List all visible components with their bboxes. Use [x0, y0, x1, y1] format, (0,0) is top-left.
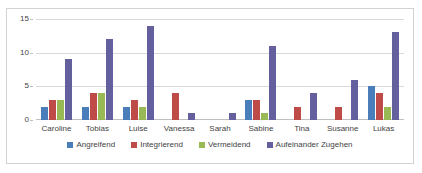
- bar: [368, 86, 375, 120]
- bar: [245, 100, 252, 120]
- bar: [376, 93, 383, 120]
- bar: [57, 100, 64, 120]
- bar: [41, 107, 48, 120]
- legend-item[interactable]: Aufeinander Zugehen: [267, 141, 353, 149]
- bar: [229, 113, 236, 120]
- bar-group: [322, 19, 363, 120]
- legend-swatch-icon: [67, 142, 73, 148]
- bar-group: [159, 19, 200, 120]
- x-tick-label: Luise: [118, 122, 159, 136]
- bar: [269, 46, 276, 120]
- legend-swatch-icon: [199, 142, 205, 148]
- legend-swatch-icon: [267, 142, 273, 148]
- bar-group: [118, 19, 159, 120]
- legend-label: Integrierend: [140, 141, 183, 149]
- x-tick-label: Caroline: [36, 122, 77, 136]
- x-tick-label: Sabine: [240, 122, 281, 136]
- legend-label: Angreifend: [76, 141, 115, 149]
- bar: [261, 113, 268, 120]
- bar: [384, 107, 391, 120]
- bar: [147, 26, 154, 120]
- y-tick-label: 5: [25, 82, 29, 90]
- legend-item[interactable]: Angreifend: [67, 141, 115, 149]
- legend-swatch-icon: [131, 142, 137, 148]
- y-axis: 051015: [7, 19, 33, 120]
- bar: [294, 107, 301, 120]
- bar-group: [200, 19, 241, 120]
- x-tick-label: Tobias: [77, 122, 118, 136]
- bar: [98, 93, 105, 120]
- bar: [310, 93, 317, 120]
- y-tick-mark: [30, 19, 33, 20]
- bar-group: [240, 19, 281, 120]
- bar: [351, 80, 358, 120]
- y-tick-mark: [30, 53, 33, 54]
- bar: [106, 39, 113, 120]
- x-axis: CarolineTobiasLuiseVanessaSarahSabineTin…: [36, 122, 404, 136]
- plot-area: [36, 19, 404, 120]
- x-tick-label: Lukas: [363, 122, 404, 136]
- bar: [253, 100, 260, 120]
- bar: [335, 107, 342, 120]
- legend-item[interactable]: Vermeidend: [199, 141, 251, 149]
- y-tick-mark: [30, 120, 33, 121]
- bar: [392, 32, 399, 120]
- bar-group: [36, 19, 77, 120]
- bar: [65, 59, 72, 120]
- chart-legend: AngreifendIntegrierendVermeidendAufeinan…: [7, 141, 413, 149]
- bars-layer: [36, 19, 404, 120]
- y-tick-mark: [30, 86, 33, 87]
- bar: [188, 113, 195, 120]
- x-tick-label: Susanne: [322, 122, 363, 136]
- bar-chart-figure: 051015 CarolineTobiasLuiseVanessaSarahSa…: [6, 8, 414, 164]
- y-tick-label: 10: [20, 49, 29, 57]
- x-tick-label: Sarah: [200, 122, 241, 136]
- y-tick-label: 0: [25, 116, 29, 124]
- y-tick-label: 15: [20, 15, 29, 23]
- legend-item[interactable]: Integrierend: [131, 141, 183, 149]
- bar: [139, 107, 146, 120]
- x-tick-label: Vanessa: [159, 122, 200, 136]
- x-tick-label: Tina: [281, 122, 322, 136]
- bar-group: [77, 19, 118, 120]
- bar: [123, 107, 130, 120]
- bar: [82, 107, 89, 120]
- legend-label: Vermeidend: [208, 141, 251, 149]
- legend-label: Aufeinander Zugehen: [276, 141, 353, 149]
- bar: [49, 100, 56, 120]
- bar: [172, 93, 179, 120]
- bar: [131, 100, 138, 120]
- bar: [90, 93, 97, 120]
- bar-group: [281, 19, 322, 120]
- bar-group: [363, 19, 404, 120]
